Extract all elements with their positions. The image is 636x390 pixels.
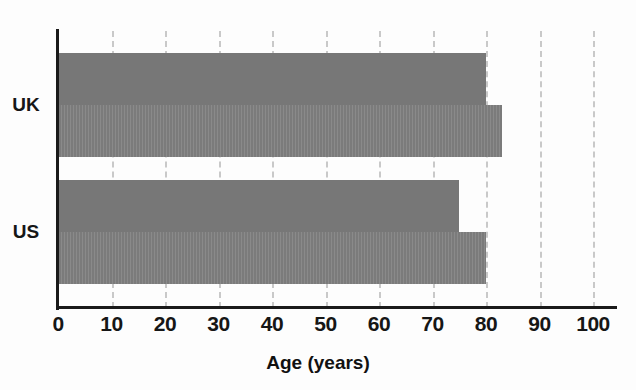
gridline — [593, 31, 595, 308]
x-axis-title: Age (years) — [0, 352, 636, 374]
x-tick-label: 40 — [242, 312, 302, 336]
gridline — [486, 31, 488, 308]
category-label-us: US — [0, 221, 52, 243]
y-axis-line — [56, 29, 59, 310]
x-tick-label: 90 — [510, 312, 570, 336]
bar — [58, 180, 459, 232]
bar-chart: 0102030405060708090100 UKUS Age (years) — [0, 0, 636, 390]
bar — [58, 105, 502, 157]
x-tick-label: 20 — [135, 312, 195, 336]
gridline — [540, 31, 542, 308]
x-tick-label: 60 — [349, 312, 409, 336]
x-tick-label: 30 — [189, 312, 249, 336]
category-label-uk: UK — [0, 94, 52, 116]
x-tick-label: 10 — [82, 312, 142, 336]
x-tick-label: 50 — [296, 312, 356, 336]
x-tick-label: 0 — [28, 312, 88, 336]
x-axis-line — [56, 306, 617, 309]
bar — [58, 232, 486, 284]
x-tick-label: 80 — [456, 312, 516, 336]
x-tick-label: 100 — [563, 312, 623, 336]
bar — [58, 53, 486, 105]
x-tick-label: 70 — [403, 312, 463, 336]
